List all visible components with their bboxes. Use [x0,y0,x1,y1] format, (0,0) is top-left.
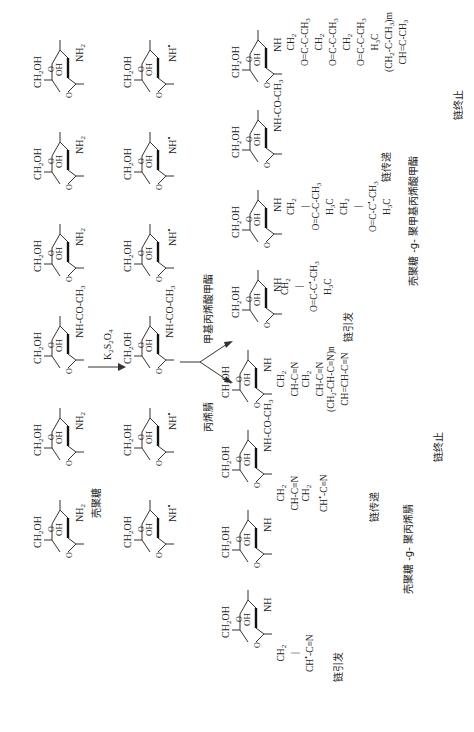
reaction-diagram: 壳聚糖 K2S2O4 甲基丙烯酸甲酯 丙烯腈 壳聚糖 -g- 聚甲基丙烯酸甲酯 … [0,0,474,732]
pmma-product-label: 壳聚糖 -g- 聚甲基丙烯酸甲酯 [405,156,420,286]
pyranose-ring-icon [226,582,286,642]
glucosamine-unit-pmma-2: O CH2OH OH O NH [236,196,282,242]
mma-initiation-label: 链引发 [340,312,355,342]
reagent-label: K2S2O4 [102,329,117,360]
glucosamine-unit-chitosan-0: O CH2OH OH O NH2 [38,46,84,92]
mma-initiation-graft: CH2|O=C-C•-CH3H3C [280,261,337,312]
pan-product-label: 壳聚糖 -g- 聚丙烯腈 [400,504,415,594]
pyranose-ring-icon [128,308,188,368]
pyranose-ring-icon [128,400,188,460]
glucosamine-unit-radical-5: O CH2OH OH O NH• [128,506,174,552]
an-termination-graft: CH2CH-C≡NCH2CH-C≡N(CH2-CH-C≡N)nCH=CH-C≡N [276,346,351,412]
glucosamine-unit-pmma-0: O CH2OH OH O NH [236,36,282,82]
glucosamine-unit-pan-0: O CH2OH OH O NH [226,356,272,402]
pyranose-ring-icon [38,32,98,92]
pyranose-ring-icon [38,492,98,552]
mma-propagation-label: 链传递 [378,152,393,182]
glucosamine-unit-radical-1: O CH2OH OH O NH• [128,138,174,184]
glucosamine-unit-radical-3: O CH2OH OH O NH-CO-CH3 [128,322,174,368]
glucosamine-unit-pan-3: O CH2OH OH O NH [226,596,272,642]
pyranose-ring-icon [226,422,286,482]
an-reagent-label: 丙烯腈 [200,402,215,432]
pyranose-ring-icon [38,400,98,460]
glucosamine-unit-pan-2: O CH2OH OH O NH [226,516,272,562]
mma-propagation-graft: CH2|O=C-C-CH3H3CCH2|O=C-C•-CH3H3C [286,181,396,232]
pyranose-ring-icon [38,308,98,368]
glucosamine-unit-chitosan-5: O CH2OH OH O NH2 [38,506,84,552]
pyranose-ring-icon [128,32,188,92]
mma-termination-label: 链终止 [450,90,465,120]
glucosamine-unit-chitosan-4: O CH2OH OH O NH2 [38,414,84,460]
glucosamine-unit-pmma-3: O CH2OH OH O NH [236,276,282,322]
pyranose-ring-icon [38,124,98,184]
glucosamine-unit-pmma-1: O CH2OH OH O NH-CO-CH3 [236,116,282,162]
mma-reagent-label: 甲基丙烯酸甲酯 [200,274,215,344]
pyranose-ring-icon [236,102,296,162]
glucosamine-unit-pan-1: O CH2OH OH O NH-CO-CH3 [226,436,272,482]
pyranose-ring-icon [128,124,188,184]
an-termination-label: 链终止 [430,432,445,462]
pyranose-ring-icon [128,216,188,276]
pyranose-ring-icon [38,216,98,276]
an-propagation-graft: CH2CH-C≡NCH2CH•-C≡N [276,474,330,512]
glucosamine-unit-radical-2: O CH2OH OH O NH• [128,230,174,276]
mma-termination-graft: CH2O=C-C-CH3CH2O=C-C-CH3CH2O=C-C-CH3H3C(… [286,12,412,72]
glucosamine-unit-chitosan-1: O CH2OH OH O NH2 [38,138,84,184]
pyranose-ring-icon [128,492,188,552]
an-initiation-label: 链引发 [330,652,345,682]
an-propagation-label: 链传递 [366,492,381,522]
glucosamine-unit-radical-4: O CH2OH OH O NH• [128,414,174,460]
glucosamine-unit-chitosan-3: O CH2OH OH O NH-CO-CH3 [38,322,84,368]
glucosamine-unit-chitosan-2: O CH2OH OH O NH2 [38,230,84,276]
an-initiation-graft: CH2|CH•-C≡N [276,634,316,672]
glucosamine-unit-radical-0: O CH2OH OH O NH• [128,46,174,92]
